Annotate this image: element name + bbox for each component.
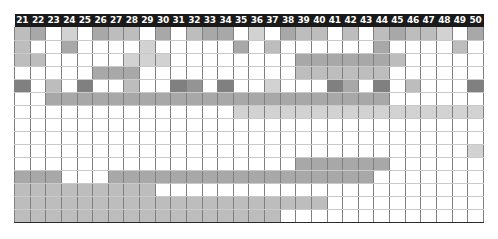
heatmap-cell[interactable] — [405, 53, 421, 66]
heatmap-cell[interactable] — [343, 209, 359, 222]
heatmap-cell[interactable] — [468, 144, 484, 157]
heatmap-cell[interactable] — [218, 118, 234, 131]
heatmap-cell[interactable] — [30, 196, 46, 209]
heatmap-cell[interactable] — [155, 209, 171, 222]
heatmap-cell[interactable] — [249, 131, 265, 144]
heatmap-cell[interactable] — [186, 157, 202, 170]
heatmap-cell[interactable] — [140, 131, 156, 144]
heatmap-cell[interactable] — [77, 118, 93, 131]
heatmap-cell[interactable] — [140, 118, 156, 131]
column-header-48[interactable]: 48 — [436, 14, 452, 27]
heatmap-cell[interactable] — [171, 196, 187, 209]
heatmap-cell[interactable] — [265, 157, 281, 170]
column-header-34[interactable]: 34 — [218, 14, 234, 27]
heatmap-cell[interactable] — [233, 144, 249, 157]
heatmap-cell[interactable] — [140, 209, 156, 222]
column-header-33[interactable]: 33 — [202, 14, 218, 27]
column-header-43[interactable]: 43 — [358, 14, 374, 27]
heatmap-cell[interactable] — [390, 183, 406, 196]
column-header-41[interactable]: 41 — [327, 14, 343, 27]
heatmap-cell[interactable] — [218, 170, 234, 183]
heatmap-cell[interactable] — [374, 144, 390, 157]
heatmap-cell[interactable] — [311, 144, 327, 157]
heatmap-cell[interactable] — [15, 66, 31, 79]
heatmap-cell[interactable] — [108, 92, 124, 105]
heatmap-cell[interactable] — [93, 105, 109, 118]
heatmap-cell[interactable] — [436, 131, 452, 144]
heatmap-cell[interactable] — [140, 79, 156, 92]
heatmap-cell[interactable] — [124, 79, 140, 92]
heatmap-cell[interactable] — [311, 209, 327, 222]
heatmap-cell[interactable] — [452, 118, 468, 131]
heatmap-cell[interactable] — [155, 92, 171, 105]
heatmap-cell[interactable] — [155, 196, 171, 209]
heatmap-cell[interactable] — [140, 27, 156, 40]
heatmap-cell[interactable] — [343, 40, 359, 53]
heatmap-cell[interactable] — [30, 66, 46, 79]
heatmap-cell[interactable] — [358, 183, 374, 196]
heatmap-cell[interactable] — [358, 79, 374, 92]
heatmap-cell[interactable] — [327, 105, 343, 118]
heatmap-cell[interactable] — [265, 209, 281, 222]
heatmap-cell[interactable] — [390, 131, 406, 144]
heatmap-cell[interactable] — [140, 53, 156, 66]
heatmap-cell[interactable] — [155, 144, 171, 157]
heatmap-cell[interactable] — [15, 131, 31, 144]
heatmap-cell[interactable] — [93, 209, 109, 222]
heatmap-cell[interactable] — [186, 196, 202, 209]
heatmap-cell[interactable] — [30, 105, 46, 118]
heatmap-cell[interactable] — [218, 53, 234, 66]
heatmap-cell[interactable] — [171, 105, 187, 118]
heatmap-cell[interactable] — [155, 40, 171, 53]
heatmap-cell[interactable] — [124, 53, 140, 66]
heatmap-cell[interactable] — [77, 92, 93, 105]
heatmap-cell[interactable] — [233, 183, 249, 196]
heatmap-cell[interactable] — [15, 183, 31, 196]
heatmap-cell[interactable] — [108, 105, 124, 118]
heatmap-cell[interactable] — [249, 92, 265, 105]
heatmap-cell[interactable] — [343, 170, 359, 183]
heatmap-cell[interactable] — [140, 66, 156, 79]
heatmap-cell[interactable] — [124, 157, 140, 170]
heatmap-cell[interactable] — [327, 170, 343, 183]
heatmap-cell[interactable] — [155, 79, 171, 92]
heatmap-cell[interactable] — [15, 209, 31, 222]
heatmap-cell[interactable] — [468, 92, 484, 105]
heatmap-cell[interactable] — [61, 170, 77, 183]
heatmap-cell[interactable] — [15, 118, 31, 131]
heatmap-cell[interactable] — [202, 40, 218, 53]
heatmap-cell[interactable] — [108, 79, 124, 92]
heatmap-cell[interactable] — [93, 144, 109, 157]
heatmap-cell[interactable] — [311, 66, 327, 79]
heatmap-cell[interactable] — [468, 27, 484, 40]
heatmap-cell[interactable] — [468, 118, 484, 131]
heatmap-cell[interactable] — [468, 79, 484, 92]
heatmap-cell[interactable] — [218, 144, 234, 157]
heatmap-cell[interactable] — [452, 144, 468, 157]
heatmap-cell[interactable] — [358, 131, 374, 144]
heatmap-cell[interactable] — [421, 196, 437, 209]
heatmap-cell[interactable] — [452, 196, 468, 209]
heatmap-cell[interactable] — [61, 92, 77, 105]
heatmap-cell[interactable] — [265, 53, 281, 66]
heatmap-cell[interactable] — [108, 53, 124, 66]
heatmap-cell[interactable] — [358, 53, 374, 66]
heatmap-cell[interactable] — [405, 144, 421, 157]
heatmap-cell[interactable] — [327, 53, 343, 66]
heatmap-cell[interactable] — [436, 40, 452, 53]
heatmap-cell[interactable] — [186, 66, 202, 79]
heatmap-cell[interactable] — [390, 79, 406, 92]
heatmap-cell[interactable] — [171, 183, 187, 196]
heatmap-cell[interactable] — [186, 53, 202, 66]
heatmap-cell[interactable] — [280, 53, 296, 66]
heatmap-cell[interactable] — [280, 118, 296, 131]
heatmap-cell[interactable] — [46, 105, 62, 118]
heatmap-cell[interactable] — [452, 131, 468, 144]
heatmap-cell[interactable] — [202, 118, 218, 131]
heatmap-cell[interactable] — [233, 170, 249, 183]
heatmap-cell[interactable] — [140, 92, 156, 105]
heatmap-cell[interactable] — [233, 92, 249, 105]
heatmap-cell[interactable] — [436, 92, 452, 105]
heatmap-cell[interactable] — [436, 144, 452, 157]
heatmap-cell[interactable] — [265, 196, 281, 209]
